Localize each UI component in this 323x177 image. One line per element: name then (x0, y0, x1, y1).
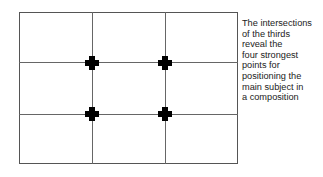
grid-horizontal-line-2 (19, 114, 238, 115)
intersection-cross-icon (85, 56, 99, 70)
caption-line: points for (242, 60, 322, 71)
diagram-caption: The intersections of the thirds reveal t… (242, 18, 322, 103)
caption-line: four strongest (242, 50, 322, 61)
caption-line: reveal the (242, 39, 322, 50)
grid-vertical-line-2 (165, 12, 166, 164)
grid-frame (19, 12, 238, 164)
grid-vertical-line-1 (92, 12, 93, 164)
intersection-cross-icon (85, 107, 99, 121)
caption-line: of the thirds (242, 29, 322, 40)
caption-line: positioning the (242, 71, 322, 82)
grid-horizontal-line-1 (19, 62, 238, 63)
caption-line: main subject in (242, 82, 322, 93)
caption-line: The intersections (242, 18, 322, 29)
caption-line: a composition (242, 92, 322, 103)
intersection-cross-icon (158, 56, 172, 70)
intersection-cross-icon (158, 107, 172, 121)
